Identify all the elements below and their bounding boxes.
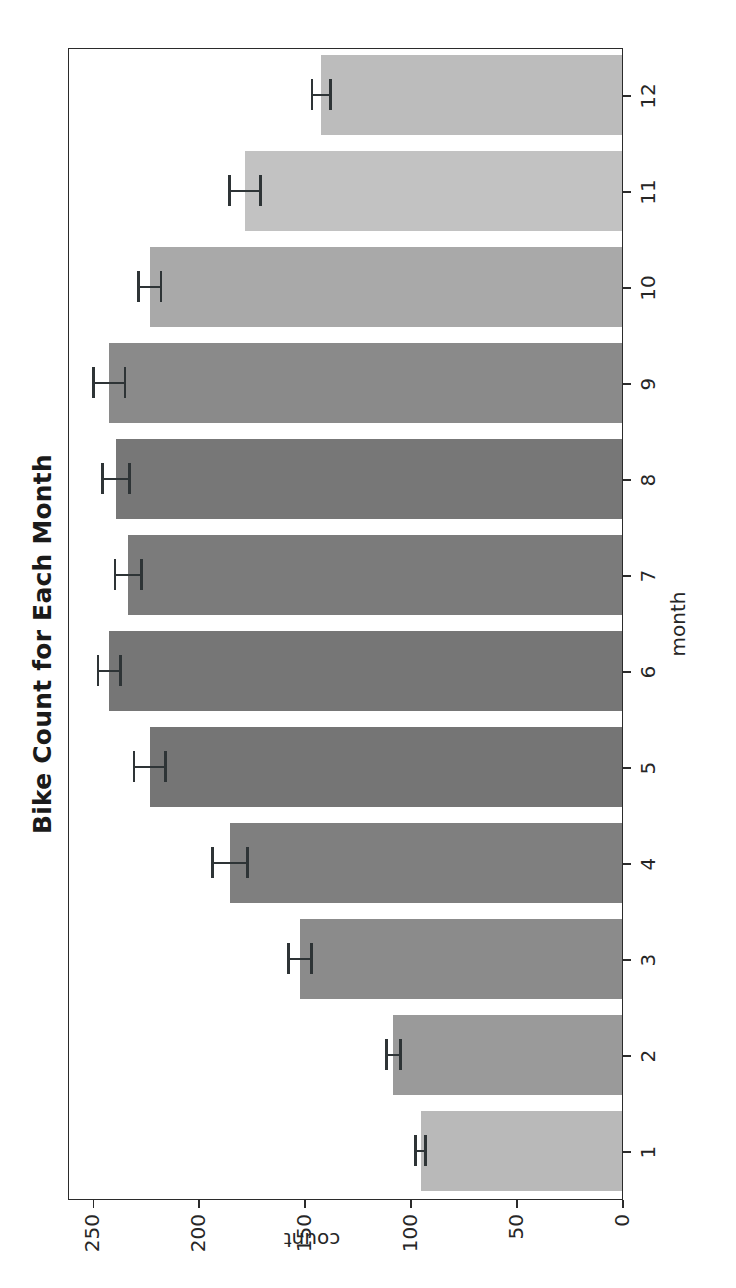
error-bar: [133, 766, 167, 769]
error-bar: [287, 958, 312, 961]
x-tick-mark: [623, 959, 631, 961]
x-tick-label: 6: [636, 648, 660, 696]
bar[interactable]: [109, 343, 622, 423]
bar-slot: [69, 727, 622, 807]
bar-slot: [69, 247, 622, 327]
x-axis-label: month: [666, 48, 690, 1200]
error-bar: [228, 190, 262, 193]
x-tick-label: 12: [636, 72, 660, 120]
bar-slot: [69, 1111, 622, 1191]
error-bar-cap: [124, 367, 127, 398]
bar[interactable]: [421, 1111, 622, 1191]
bar-chart-figure: Bike Count for Each Month 05010015020025…: [0, 0, 736, 1288]
y-tick-label: 200: [186, 1214, 210, 1252]
bar-slot: [69, 1015, 622, 1095]
x-tick-mark: [623, 383, 631, 385]
x-tick-mark: [623, 287, 631, 289]
error-bar-cap: [329, 79, 332, 110]
error-bar: [97, 670, 122, 673]
bar[interactable]: [109, 631, 622, 711]
error-bar-cap: [140, 559, 143, 590]
x-tick-mark: [623, 95, 631, 97]
y-tick-mark: [622, 1200, 624, 1208]
bar-slot: [69, 823, 622, 903]
error-bar: [311, 94, 332, 97]
x-tick-label: 11: [636, 168, 660, 216]
error-bar: [114, 574, 144, 577]
y-tick-mark: [516, 1200, 518, 1208]
x-tick-label: 8: [636, 456, 660, 504]
y-tick-mark: [304, 1200, 306, 1208]
bar[interactable]: [300, 919, 622, 999]
bar-slot: [69, 343, 622, 423]
error-bar-cap: [385, 1039, 388, 1070]
x-tick-label: 1: [636, 1128, 660, 1176]
y-tick-label: 50: [504, 1214, 528, 1239]
x-tick-label: 3: [636, 936, 660, 984]
screenshot-page: Bike Count for Each Month 05010015020025…: [0, 0, 736, 1288]
error-bar-cap: [164, 751, 167, 782]
error-bar-cap: [259, 175, 262, 206]
error-bar-cap: [101, 463, 104, 494]
error-bar: [92, 382, 126, 385]
error-bar-cap: [92, 367, 95, 398]
y-tick-mark: [410, 1200, 412, 1208]
x-tick-mark: [623, 863, 631, 865]
error-bar: [211, 862, 249, 865]
bar[interactable]: [245, 151, 622, 231]
y-tick-label: 0: [610, 1214, 634, 1227]
bar[interactable]: [116, 439, 622, 519]
error-bar-cap: [311, 79, 314, 110]
bar-slot: [69, 535, 622, 615]
y-axis-label: count: [252, 1228, 372, 1252]
error-bar: [385, 1054, 402, 1057]
error-bar-cap: [228, 175, 231, 206]
y-tick-mark: [198, 1200, 200, 1208]
error-bar-cap: [128, 463, 131, 494]
y-tick-mark: [93, 1200, 95, 1208]
x-tick-mark: [623, 575, 631, 577]
x-tick-label: 7: [636, 552, 660, 600]
page-title: Bike Count for Each Month: [28, 0, 57, 1288]
bar-slot: [69, 439, 622, 519]
bar[interactable]: [321, 55, 622, 135]
bar[interactable]: [150, 247, 622, 327]
error-bar: [101, 478, 131, 481]
error-bar-cap: [133, 751, 136, 782]
error-bar-cap: [160, 271, 163, 302]
x-tick-label: 9: [636, 360, 660, 408]
x-tick-label: 4: [636, 840, 660, 888]
error-bar-cap: [399, 1039, 402, 1070]
bar[interactable]: [230, 823, 622, 903]
x-tick-mark: [623, 1151, 631, 1153]
x-tick-mark: [623, 767, 631, 769]
x-tick-mark: [623, 671, 631, 673]
y-tick-label: 250: [80, 1214, 104, 1252]
error-bar-cap: [310, 943, 313, 974]
bar[interactable]: [393, 1015, 622, 1095]
bar-slot: [69, 919, 622, 999]
error-bar-cap: [211, 847, 214, 878]
bar[interactable]: [150, 727, 622, 807]
bar-slot: [69, 151, 622, 231]
x-tick-label: 5: [636, 744, 660, 792]
error-bar-cap: [97, 655, 100, 686]
x-tick-mark: [623, 479, 631, 481]
error-bar-cap: [414, 1135, 417, 1166]
x-tick-mark: [623, 1055, 631, 1057]
plot-area: [68, 48, 623, 1200]
error-bar: [414, 1150, 427, 1153]
bars-layer: [69, 49, 622, 1199]
x-tick-label: 2: [636, 1032, 660, 1080]
error-bar-cap: [424, 1135, 427, 1166]
error-bar-cap: [114, 559, 117, 590]
x-tick-mark: [623, 191, 631, 193]
error-bar: [137, 286, 162, 289]
bar[interactable]: [128, 535, 622, 615]
bar-slot: [69, 55, 622, 135]
error-bar-cap: [119, 655, 122, 686]
error-bar-cap: [246, 847, 249, 878]
rotated-figure-stage: Bike Count for Each Month 05010015020025…: [0, 0, 736, 1288]
bar-slot: [69, 631, 622, 711]
x-tick-label: 10: [636, 264, 660, 312]
